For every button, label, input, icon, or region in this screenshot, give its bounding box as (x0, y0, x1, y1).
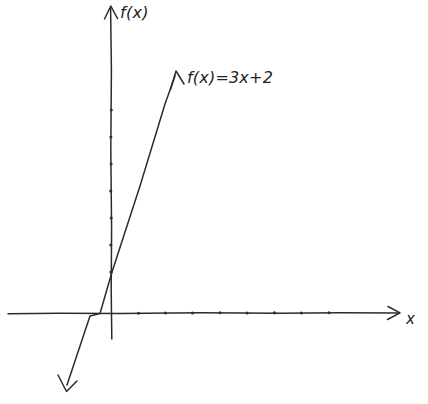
x-axis-tick-dot (164, 312, 167, 315)
y-axis-line (111, 8, 112, 339)
x-axis-tick-dot (191, 311, 194, 314)
function-line-group (58, 71, 184, 392)
x-axis-tick-dot (137, 312, 140, 315)
y-axis-label: f(x) (120, 3, 149, 22)
y-axis-tick-dot (109, 189, 112, 192)
x-axis-tick-dot (219, 311, 222, 314)
coordinate-plane-sketch (0, 0, 428, 404)
x-axis-group (8, 307, 400, 320)
y-axis-tick-dot (110, 217, 113, 220)
y-axis-tick-dot (110, 109, 113, 112)
x-axis-label: x (406, 310, 415, 328)
function-line-fx-3x-plus-2 (67, 76, 175, 385)
x-axis-tick-dot (328, 311, 331, 314)
function-equation-label: f(x)=3x+2 (187, 68, 273, 87)
x-axis-tick-dot (300, 311, 303, 314)
x-axis-tick-dot (273, 311, 276, 314)
graph-figure: f(x) x f(x)=3x+2 (0, 0, 428, 404)
y-axis-tick-dot (110, 163, 113, 166)
x-axis-tick-dot (246, 312, 249, 315)
y-axis-tick-dot (109, 136, 112, 139)
x-axis-line (8, 313, 399, 314)
function-line-upper-arrowhead-icon (171, 71, 185, 90)
y-axis-tick-dot (109, 244, 112, 247)
